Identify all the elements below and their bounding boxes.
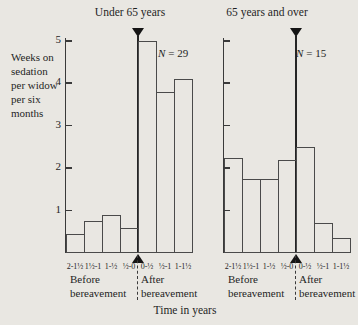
- y-tick-label: 3: [39, 118, 61, 130]
- figure: Under 65 years 65 years and over Weeks o…: [0, 0, 358, 325]
- after-bereavement-label: After bereavement: [299, 272, 355, 300]
- bar: [296, 147, 315, 253]
- panel-title-under-65: Under 65 years: [65, 6, 195, 18]
- y-axis-label-line: Weeks on: [11, 50, 67, 64]
- bar: [278, 160, 297, 253]
- before-bereavement-label: Before bereavement: [228, 272, 284, 300]
- bar: [224, 158, 243, 253]
- sample-size-label: N= 29: [158, 47, 188, 59]
- y-tick-mark: [224, 210, 230, 212]
- bar: [314, 223, 333, 253]
- n-value: = 29: [168, 47, 188, 59]
- n-symbol: N: [296, 47, 303, 59]
- before-label-line: bereavement: [228, 286, 284, 300]
- y-tick-mark: [66, 125, 72, 127]
- y-tick-mark: [66, 167, 72, 169]
- before-label-line: Before: [70, 272, 126, 286]
- x-axis-title: Time in years: [115, 304, 255, 316]
- bar: [260, 179, 279, 253]
- y-tick-label: 5: [39, 33, 61, 45]
- panel-title-65-and-over: 65 years and over: [202, 6, 332, 18]
- x-tick-label: 1-1½: [168, 262, 198, 271]
- bar: [66, 234, 85, 253]
- after-label-line: After: [141, 272, 197, 286]
- y-tick-mark: [224, 125, 230, 127]
- before-label-line: Before: [228, 272, 284, 286]
- after-bereavement-label: After bereavement: [141, 272, 197, 300]
- before-label-line: bereavement: [70, 286, 126, 300]
- y-tick-label: 4: [39, 75, 61, 87]
- bar: [120, 228, 139, 253]
- y-tick-mark: [66, 82, 72, 84]
- before-bereavement-label: Before bereavement: [70, 272, 126, 300]
- bar: [332, 238, 351, 253]
- bar: [102, 215, 121, 253]
- y-tick-mark: [66, 40, 72, 42]
- bereavement-arrow-down-icon: [290, 28, 302, 37]
- y-tick-mark: [224, 40, 230, 42]
- y-tick-mark: [224, 167, 230, 169]
- y-tick-mark: [66, 210, 72, 212]
- histogram-under-65: N= 29 Before bereavement After bereaveme…: [65, 38, 192, 253]
- histogram-65-and-over: N= 15 Before bereavement After bereaveme…: [223, 38, 350, 253]
- after-label-line: After: [299, 272, 355, 286]
- sample-size-label: N= 15: [296, 47, 326, 59]
- n-symbol: N: [158, 47, 165, 59]
- bar: [242, 179, 261, 253]
- y-tick-mark: [224, 82, 230, 84]
- after-label-line: bereavement: [141, 286, 197, 300]
- bar: [156, 92, 175, 253]
- n-value: = 15: [306, 47, 326, 59]
- bar: [174, 79, 193, 253]
- y-tick-label: 1: [39, 203, 61, 215]
- after-label-line: bereavement: [299, 286, 355, 300]
- bar: [138, 41, 157, 253]
- bar: [84, 221, 103, 253]
- y-tick-label: 2: [39, 160, 61, 172]
- bereavement-arrow-down-icon: [132, 28, 144, 37]
- y-axis-label-line: per six: [11, 92, 67, 106]
- x-tick-label: 1-1½: [326, 262, 356, 271]
